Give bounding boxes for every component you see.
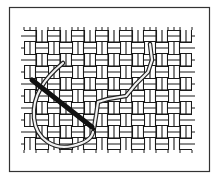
illustration-canvas: Illustration of a threaded needle workin… — [0, 0, 214, 176]
stitch-illustration — [0, 0, 214, 176]
